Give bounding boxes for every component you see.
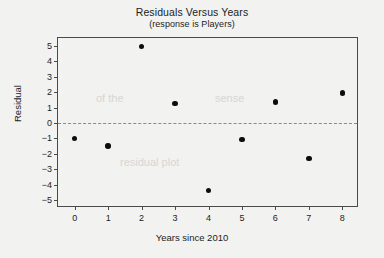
data-point bbox=[239, 137, 244, 142]
x-axis-tick bbox=[309, 206, 310, 210]
y-axis-tick bbox=[54, 108, 58, 109]
y-axis-tick bbox=[54, 77, 58, 78]
x-axis-tick bbox=[108, 206, 109, 210]
y-axis-tick-label: 4 bbox=[47, 56, 52, 66]
y-axis-tick-label: 3 bbox=[47, 72, 52, 82]
y-axis-tick-label: −1 bbox=[42, 133, 52, 143]
y-axis-tick-label: −2 bbox=[42, 149, 52, 159]
x-axis-tick-label: 5 bbox=[239, 213, 244, 223]
chart-title-block: Residuals Versus Years (response is Play… bbox=[0, 6, 384, 29]
data-point bbox=[306, 156, 311, 161]
chart-title: Residuals Versus Years bbox=[0, 6, 384, 18]
y-axis-tick-label: 0 bbox=[47, 118, 52, 128]
x-axis-tick bbox=[342, 206, 343, 210]
y-axis-tick-label: −3 bbox=[42, 164, 52, 174]
plot-area: 543210−1−2−3−4−5012345678 bbox=[58, 38, 357, 206]
x-axis-tick-label: 7 bbox=[306, 213, 311, 223]
y-axis-tick-label: 5 bbox=[47, 41, 52, 51]
x-axis-tick-label: 1 bbox=[106, 213, 111, 223]
y-axis-tick-label: 1 bbox=[47, 103, 52, 113]
x-axis-tick bbox=[142, 206, 143, 210]
data-point bbox=[273, 99, 278, 104]
x-axis-tick bbox=[75, 206, 76, 210]
y-axis-tick bbox=[54, 61, 58, 62]
y-axis-tick bbox=[54, 92, 58, 93]
data-point bbox=[340, 90, 345, 95]
y-axis-tick bbox=[54, 123, 58, 124]
x-axis-tick bbox=[242, 206, 243, 210]
y-axis-tick bbox=[54, 169, 58, 170]
y-axis-tick-label: −5 bbox=[42, 195, 52, 205]
x-axis-tick bbox=[275, 206, 276, 210]
x-axis-tick bbox=[209, 206, 210, 210]
data-point bbox=[206, 188, 211, 193]
x-axis-tick-label: 8 bbox=[340, 213, 345, 223]
residual-scatter-chart: of the sense residual plot Residuals Ver… bbox=[0, 0, 384, 258]
data-point bbox=[72, 136, 77, 141]
data-point bbox=[139, 44, 144, 49]
y-axis-tick bbox=[54, 138, 58, 139]
chart-subtitle: (response is Players) bbox=[0, 19, 384, 29]
y-axis-tick-label: −4 bbox=[42, 180, 52, 190]
x-axis-tick-label: 0 bbox=[72, 213, 77, 223]
y-axis-label: Residual bbox=[12, 85, 23, 122]
y-axis-tick bbox=[54, 185, 58, 186]
data-point bbox=[105, 143, 110, 148]
y-axis-tick bbox=[54, 46, 58, 47]
data-point bbox=[172, 101, 177, 106]
x-axis-label: Years since 2010 bbox=[0, 232, 384, 243]
x-axis-tick-label: 3 bbox=[173, 213, 178, 223]
x-axis-tick-label: 4 bbox=[206, 213, 211, 223]
y-axis-tick-label: 2 bbox=[47, 87, 52, 97]
x-axis-tick-label: 6 bbox=[273, 213, 278, 223]
y-axis-tick bbox=[54, 200, 58, 201]
plot-frame: 543210−1−2−3−4−5012345678 bbox=[57, 37, 358, 207]
y-axis-tick bbox=[54, 154, 58, 155]
zero-reference-line bbox=[58, 123, 357, 124]
x-axis-tick-label: 2 bbox=[139, 213, 144, 223]
x-axis-tick bbox=[175, 206, 176, 210]
